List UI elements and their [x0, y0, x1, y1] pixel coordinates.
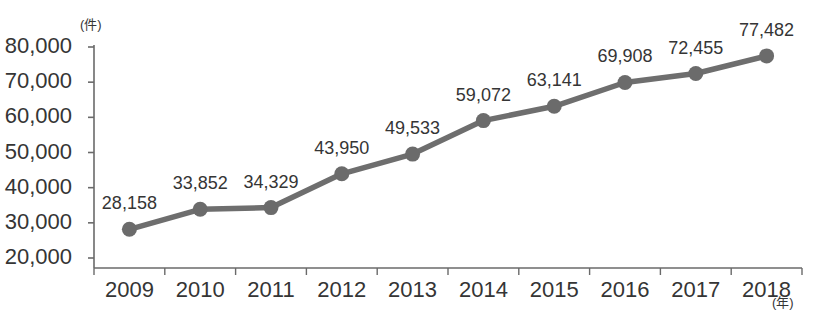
data-point-marker — [122, 222, 137, 237]
x-axis-tick-label: 2018 — [731, 277, 802, 303]
x-axis-tick-label: 2011 — [236, 277, 307, 303]
data-line — [129, 56, 766, 229]
y-axis-tick-label: 20,000 — [0, 244, 72, 270]
line-chart: (件) (年) 80,00070,00060,00050,00040,00030… — [0, 0, 813, 318]
y-axis-unit-label: (件) — [80, 14, 102, 33]
data-point-label: 77,482 — [722, 20, 812, 41]
x-axis-tick-label: 2009 — [94, 277, 165, 303]
data-point-marker — [547, 99, 562, 114]
x-axis-tick-label: 2016 — [590, 277, 661, 303]
data-point-marker — [264, 200, 279, 215]
data-point-label: 28,158 — [84, 193, 174, 214]
data-point-marker — [688, 66, 703, 81]
x-axis-tick-label: 2015 — [519, 277, 590, 303]
x-axis-tick-label: 2014 — [448, 277, 519, 303]
y-axis-tick-label: 50,000 — [0, 139, 72, 165]
data-point-marker — [334, 166, 349, 181]
data-point-marker — [618, 75, 633, 90]
x-axis-tick-label: 2010 — [165, 277, 236, 303]
data-point-marker — [405, 147, 420, 162]
y-axis-ticks — [88, 47, 94, 258]
data-point-marker — [476, 113, 491, 128]
x-axis-tick-label: 2017 — [660, 277, 731, 303]
data-point-marker — [193, 202, 208, 217]
data-point-label: 43,950 — [297, 138, 387, 159]
data-point-label: 34,329 — [226, 172, 316, 193]
y-axis-tick-label: 30,000 — [0, 209, 72, 235]
y-axis-tick-label: 70,000 — [0, 68, 72, 94]
y-axis-tick-label: 60,000 — [0, 103, 72, 129]
y-axis-tick-label: 40,000 — [0, 174, 72, 200]
x-axis-tick-label: 2013 — [377, 277, 448, 303]
data-point-marker — [759, 48, 774, 63]
data-point-label: 49,533 — [368, 118, 458, 139]
y-axis-tick-label: 80,000 — [0, 33, 72, 59]
x-axis-ticks — [94, 268, 802, 275]
data-point-label: 63,141 — [509, 70, 599, 91]
x-axis-tick-label: 2012 — [306, 277, 377, 303]
